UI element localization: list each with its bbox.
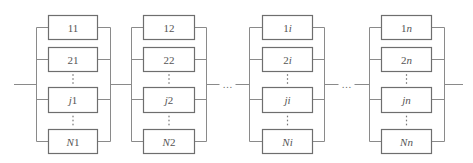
parallel-ellipsis-dot <box>406 74 407 76</box>
block-label: 12 <box>164 22 175 34</box>
series-parallel-diagram: ……1121j1N11222j2N21i2ijiNi1n2njnNn <box>0 0 473 163</box>
block-label: j1 <box>67 94 78 106</box>
block-label: N2 <box>162 136 176 148</box>
parallel-ellipsis-dot <box>72 116 73 118</box>
parallel-ellipsis-dot <box>168 116 169 118</box>
block-label: 11 <box>68 22 79 34</box>
series-ellipsis: … <box>342 79 352 90</box>
parallel-ellipsis-dot <box>406 78 407 80</box>
parallel-ellipsis-dot <box>168 120 169 122</box>
block-label: 22 <box>164 54 175 66</box>
block-label: 21 <box>68 54 79 66</box>
parallel-ellipsis-dot <box>406 82 407 84</box>
parallel-ellipsis-dot <box>287 124 288 126</box>
block-label: jn <box>400 94 411 106</box>
parallel-ellipsis-dot <box>72 74 73 76</box>
block-label: N1 <box>66 136 80 148</box>
parallel-ellipsis-dot <box>287 78 288 80</box>
parallel-ellipsis-dot <box>287 74 288 76</box>
parallel-ellipsis-dot <box>406 116 407 118</box>
block-label: 1n <box>401 22 413 34</box>
parallel-ellipsis-dot <box>72 124 73 126</box>
series-ellipsis: … <box>223 79 233 90</box>
parallel-ellipsis-dot <box>72 78 73 80</box>
parallel-ellipsis-dot <box>168 124 169 126</box>
block-label: j2 <box>163 94 174 106</box>
connection-wires <box>14 28 463 142</box>
block-label: Ni <box>281 136 292 148</box>
block-label: 2i <box>283 54 292 66</box>
parallel-ellipsis-dot <box>72 82 73 84</box>
block-label: Nn <box>399 136 413 148</box>
block-label: 2n <box>401 54 413 66</box>
parallel-ellipsis-dot <box>406 120 407 122</box>
parallel-ellipsis-dot <box>168 78 169 80</box>
block-label: 1i <box>283 22 292 34</box>
parallel-ellipsis-dot <box>406 124 407 126</box>
block-label: ji <box>282 94 290 106</box>
parallel-ellipsis-dot <box>287 120 288 122</box>
parallel-ellipsis-dot <box>168 74 169 76</box>
parallel-ellipsis-dot <box>168 82 169 84</box>
parallel-ellipsis-dot <box>72 120 73 122</box>
parallel-ellipsis-dot <box>287 82 288 84</box>
parallel-ellipsis-dot <box>287 116 288 118</box>
